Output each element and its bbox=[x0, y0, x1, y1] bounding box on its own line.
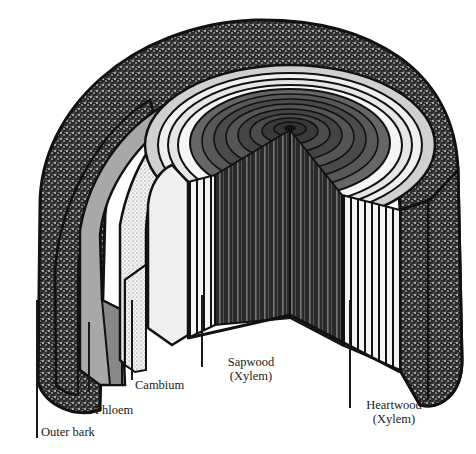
label-heartwood-name: Heartwood bbox=[352, 398, 436, 412]
label-outer-bark: Outer bark bbox=[41, 425, 95, 439]
leader-heartwood bbox=[349, 300, 351, 408]
label-phloem: Phloem bbox=[95, 403, 133, 417]
leader-cambium bbox=[131, 300, 133, 380]
leader-phloem bbox=[88, 322, 90, 392]
label-sapwood: Sapwood (Xylem) bbox=[216, 355, 286, 383]
label-heartwood-type: (Xylem) bbox=[352, 412, 436, 426]
label-cambium: Cambium bbox=[135, 378, 184, 392]
label-heartwood: Heartwood (Xylem) bbox=[352, 398, 436, 426]
leader-outer-bark bbox=[36, 300, 38, 438]
leader-sapwood bbox=[201, 295, 203, 367]
label-sapwood-type: (Xylem) bbox=[216, 369, 286, 383]
tree-trunk-cross-section-diagram bbox=[0, 0, 476, 454]
label-sapwood-name: Sapwood bbox=[216, 355, 286, 369]
